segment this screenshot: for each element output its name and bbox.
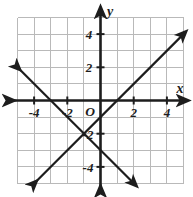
coordinate-plane-graph: -4 -2 2 4 4 2 -2 -4 O x y (0, 0, 193, 197)
x-axis-label: x (176, 81, 184, 96)
x-tick-label-neg2: -2 (62, 105, 73, 120)
graph-svg: -4 -2 2 4 4 2 -2 -4 O x y (0, 0, 193, 197)
y-tick-label-pos2: 2 (85, 60, 93, 75)
y-axis-label: y (105, 4, 114, 19)
x-tick-label-pos4: 4 (163, 105, 171, 120)
line-rising (34, 34, 183, 183)
x-tick-label-neg4: -4 (29, 105, 40, 120)
line-falling (18, 67, 135, 183)
y-tick-label-neg2: -2 (83, 127, 94, 142)
x-tick-label-pos2: 2 (129, 105, 137, 120)
origin-label: O (85, 104, 95, 119)
y-tick-label-neg4: -4 (83, 160, 94, 175)
y-tick-label-pos4: 4 (85, 27, 93, 42)
